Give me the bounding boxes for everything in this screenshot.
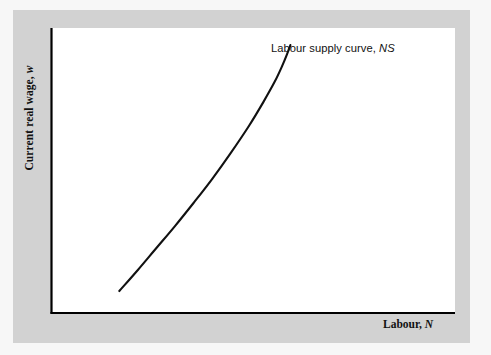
y-axis-label-variable: w [23, 65, 35, 76]
curve-annotation-text: Labour supply curve, [271, 42, 376, 54]
y-axis-label-text: Current real wage, [23, 76, 35, 170]
x-axis-label: Labour, N [383, 318, 433, 330]
y-axis-label: Current real wage, w [23, 28, 35, 208]
x-axis-label-text: Labour, [383, 318, 422, 330]
labour-supply-curve [119, 45, 290, 291]
curve-annotation-variable: NS [376, 42, 395, 54]
plot-svg [0, 0, 491, 355]
curve-annotation-label: Labour supply curve, NS [271, 42, 395, 54]
figure-labour-supply-curve: Current real wage, w Labour, N Labour su… [0, 0, 491, 355]
x-axis-label-variable: N [422, 318, 433, 330]
